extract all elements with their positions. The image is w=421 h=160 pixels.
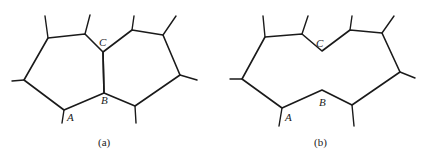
panel-a: CBA(a) <box>12 15 197 149</box>
left-grain <box>24 34 104 110</box>
grain-growth-diagram: CBA(a) CBA(b) <box>0 0 421 160</box>
grain-boundary-spoke <box>279 108 282 126</box>
grain-boundary-spoke <box>85 15 90 34</box>
grain-boundary-spoke <box>400 72 415 78</box>
vertex-label-c: C <box>99 36 107 48</box>
grain-boundary-spoke <box>12 80 24 81</box>
vertex-label-c: C <box>316 37 324 49</box>
grain-boundary-spoke <box>382 16 394 33</box>
grain-boundary-spoke <box>132 16 134 30</box>
panel-b: CBA(b) <box>230 16 415 149</box>
grain-boundary-spoke <box>45 16 48 38</box>
grain-boundary-spoke <box>62 110 64 123</box>
right-grain <box>103 30 180 106</box>
grain-boundary-spoke <box>135 106 136 123</box>
vertex-label-b: B <box>319 96 326 108</box>
vertex-label-a: A <box>66 111 74 123</box>
grain-boundary-spoke <box>302 16 308 34</box>
grain-boundary-spoke <box>352 105 354 126</box>
panel-caption-b: (b) <box>314 136 327 149</box>
grain-boundary-spoke <box>263 16 265 37</box>
vertex-label-a: A <box>284 111 292 123</box>
vertex-label-b: B <box>101 94 108 106</box>
grain-boundary-spoke <box>180 75 197 80</box>
panel-caption-a: (a) <box>98 136 111 149</box>
grain-boundary-spoke <box>350 16 352 30</box>
grain-boundary-spoke <box>163 16 176 35</box>
